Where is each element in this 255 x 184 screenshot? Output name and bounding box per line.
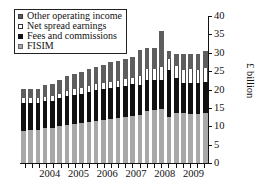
bar-2009-q3 xyxy=(196,16,201,163)
bar-segment-fees xyxy=(152,80,157,110)
bar-2007-q4 xyxy=(145,16,150,163)
bar-segment-other xyxy=(36,89,41,99)
bar-segment-other xyxy=(79,72,84,89)
x-axis-year-label-2007: 2007 xyxy=(126,169,147,180)
bar-segment-fees xyxy=(145,80,150,111)
bar-segment-fisim xyxy=(181,113,186,163)
bar-segment-spread xyxy=(174,66,179,78)
bar-segment-fees xyxy=(87,92,92,122)
bar-segment-fisim xyxy=(167,117,172,163)
bar-segment-fisim xyxy=(152,110,157,163)
bar-segment-other xyxy=(43,85,48,97)
x-axis-line xyxy=(20,163,209,164)
bar-2009-q4 xyxy=(203,16,208,163)
bar-segment-spread xyxy=(123,79,128,86)
x-axis-year-label-2009: 2009 xyxy=(183,169,204,180)
x-axis-tick xyxy=(118,164,119,168)
y-axis-tick xyxy=(208,108,212,109)
bar-segment-fisim xyxy=(203,113,208,163)
bar-segment-fees xyxy=(57,98,62,126)
x-axis-tick xyxy=(176,164,177,168)
y-axis-tick-label: 40 xyxy=(214,11,225,22)
y-axis-tick xyxy=(208,163,212,164)
bar-segment-other xyxy=(152,48,157,69)
bar-segment-other xyxy=(87,69,92,86)
bar-segment-fisim xyxy=(87,122,92,163)
bar-segment-other xyxy=(28,89,33,99)
bar-2008-q1 xyxy=(152,16,157,163)
y-axis-tick-label: 30 xyxy=(214,48,225,59)
bar-segment-spread xyxy=(181,70,186,83)
bar-segment-spread xyxy=(159,67,164,79)
bar-segment-fisim xyxy=(108,119,113,163)
x-axis-year-label-2005: 2005 xyxy=(68,169,89,180)
bar-segment-other xyxy=(196,54,201,70)
x-axis-tick xyxy=(204,164,205,168)
bar-segment-other xyxy=(72,74,77,89)
y-axis-tick-label: 15 xyxy=(214,103,225,114)
bar-segment-spread xyxy=(145,69,150,80)
y-axis-tick-label: 10 xyxy=(214,121,225,132)
y-axis-tick-label: 25 xyxy=(214,66,225,77)
bar-segment-other xyxy=(181,54,186,69)
bar-segment-fisim xyxy=(43,128,48,163)
bar-segment-fees xyxy=(28,103,33,130)
x-axis-tick xyxy=(25,164,26,168)
bar-segment-fisim xyxy=(65,125,70,163)
bar-segment-other xyxy=(101,65,106,83)
bar-segment-fees xyxy=(101,89,106,120)
bar-segment-spread xyxy=(203,68,208,82)
bar-segment-fisim xyxy=(145,111,150,163)
bar-segment-other xyxy=(138,50,143,76)
bar-segment-other xyxy=(123,59,128,79)
y-axis-tick xyxy=(208,90,212,91)
y-axis-tick-label: 5 xyxy=(214,139,219,150)
bar-segment-fees xyxy=(181,83,186,114)
bar-segment-fees xyxy=(188,83,193,114)
bar-segment-fees xyxy=(167,70,172,117)
bar-2007-q2 xyxy=(130,16,135,163)
bar-segment-other xyxy=(57,80,62,93)
bar-segment-fisim xyxy=(79,123,84,163)
bar-2008-q2 xyxy=(159,16,164,163)
bar-segment-fisim xyxy=(28,130,33,163)
bar-segment-fees xyxy=(174,78,179,113)
bar-segment-fees xyxy=(72,95,77,124)
bar-segment-fisim xyxy=(21,131,26,163)
bar-segment-fees xyxy=(116,87,121,118)
bar-segment-other xyxy=(108,62,113,81)
bar-segment-spread xyxy=(138,76,143,86)
y-axis-tick xyxy=(208,145,212,146)
legend-swatch-icon-fisim xyxy=(18,44,23,49)
bar-segment-fisim xyxy=(72,124,77,163)
bar-segment-other xyxy=(21,89,26,98)
bar-segment-fisim xyxy=(94,121,99,163)
bar-segment-fees xyxy=(159,80,164,109)
y-axis-tick-label: 20 xyxy=(214,84,225,95)
x-axis-tick xyxy=(32,164,33,168)
bar-segment-spread xyxy=(167,59,172,70)
x-axis-year-label-2006: 2006 xyxy=(97,169,118,180)
bar-segment-other xyxy=(145,48,150,69)
bar-segment-fisim xyxy=(159,109,164,163)
legend-label-fisim: FISIM xyxy=(27,41,54,51)
bar-segment-fisim xyxy=(36,130,41,163)
bar-segment-spread xyxy=(196,70,201,83)
bar-segment-other xyxy=(203,51,208,68)
bar-segment-fees xyxy=(130,84,135,116)
bar-segment-fees xyxy=(79,94,84,124)
y-axis-tick-label: 0 xyxy=(214,158,219,169)
bar-segment-spread xyxy=(188,69,193,83)
bar-segment-other xyxy=(174,54,179,66)
bar-segment-fees xyxy=(196,83,201,114)
bar-segment-fisim xyxy=(138,115,143,163)
bar-segment-fees xyxy=(108,88,113,119)
bar-segment-fisim xyxy=(174,113,179,163)
x-axis-tick xyxy=(89,164,90,168)
y-axis-tick xyxy=(208,53,212,54)
stacked-bar-chart: 0510152025303540 20042005200620072008200… xyxy=(0,0,255,184)
bar-2009-q2 xyxy=(188,16,193,163)
y-axis-title: £ billion xyxy=(245,63,255,98)
bar-segment-fisim xyxy=(116,118,121,163)
bar-segment-other xyxy=(65,76,70,90)
